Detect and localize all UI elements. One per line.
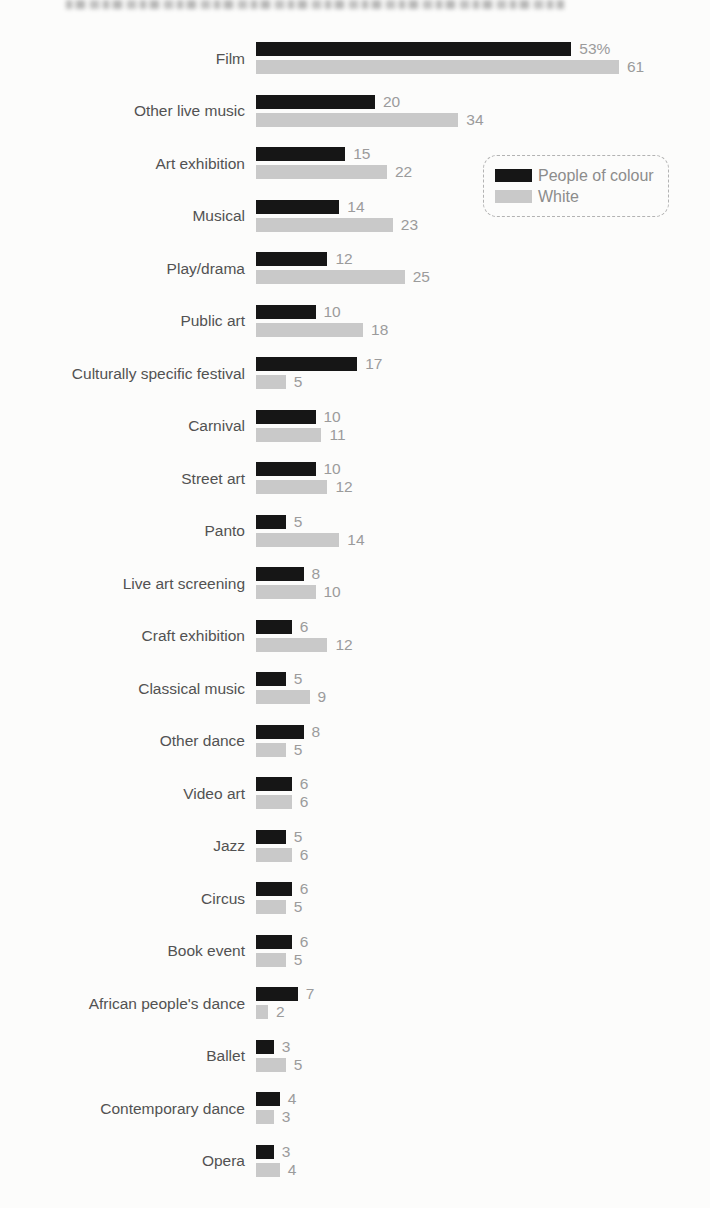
bar-group: 1011 [256, 410, 346, 442]
bar-line: 6 [256, 620, 353, 634]
value-label: 2 [276, 1005, 285, 1019]
bar-line: 20 [256, 95, 484, 109]
category-label: Book event [0, 942, 256, 959]
value-label: 6 [300, 848, 309, 862]
value-label: 6 [300, 882, 309, 896]
bar-group: 65 [256, 935, 308, 967]
value-label: 14 [347, 200, 364, 214]
value-label: 5 [294, 900, 303, 914]
bar-white [256, 480, 327, 494]
value-label: 3 [282, 1110, 291, 1124]
bar-group: 53%61 [256, 42, 644, 74]
bar-people-of-colour [256, 987, 298, 1001]
value-label: 53% [579, 42, 610, 56]
category-label: Video art [0, 785, 256, 802]
value-label: 5 [294, 515, 303, 529]
bar-line: 11 [256, 428, 346, 442]
bar-line: 6 [256, 795, 308, 809]
value-label: 10 [324, 305, 341, 319]
category-label: African people's dance [0, 995, 256, 1012]
category-row-african-people-s-dance: African people's dance72 [0, 987, 644, 1019]
bar-line: 5 [256, 743, 320, 757]
value-label: 6 [300, 620, 309, 634]
bar-line: 5 [256, 375, 382, 389]
value-label: 3 [282, 1145, 291, 1159]
value-label: 10 [324, 462, 341, 476]
bar-line: 34 [256, 113, 484, 127]
bar-people-of-colour [256, 1040, 274, 1054]
bar-line: 22 [256, 165, 412, 179]
category-row-panto: Panto514 [0, 515, 644, 547]
category-row-public-art: Public art1018 [0, 305, 644, 337]
bar-line: 5 [256, 900, 308, 914]
legend-label-white: White [538, 188, 579, 206]
legend-label-people-of-colour: People of colour [538, 167, 654, 185]
bar-line: 10 [256, 585, 341, 599]
value-label: 5 [294, 1058, 303, 1072]
category-label: Carnival [0, 417, 256, 434]
bar-group: 85 [256, 725, 320, 757]
category-row-film: Film53%61 [0, 42, 644, 74]
bar-group: 43 [256, 1092, 296, 1124]
category-label: Culturally specific festival [0, 365, 256, 382]
value-label: 12 [335, 480, 352, 494]
category-row-culturally-specific-festival: Culturally specific festival175 [0, 357, 644, 389]
bar-group: 2034 [256, 95, 484, 127]
bar-line: 6 [256, 935, 308, 949]
value-label: 20 [383, 95, 400, 109]
category-row-ballet: Ballet35 [0, 1040, 644, 1072]
legend-box: People of colour White [483, 155, 669, 217]
bar-line: 2 [256, 1005, 314, 1019]
bar-people-of-colour [256, 620, 292, 634]
bar-group: 1423 [256, 200, 418, 232]
bar-people-of-colour [256, 725, 304, 739]
bar-line: 12 [256, 252, 430, 266]
value-label: 15 [353, 147, 370, 161]
value-label: 17 [365, 357, 382, 371]
category-label: Classical music [0, 680, 256, 697]
bar-line: 5 [256, 830, 308, 844]
bar-line: 5 [256, 672, 326, 686]
category-row-jazz: Jazz56 [0, 830, 644, 862]
bar-line: 8 [256, 567, 341, 581]
category-label: Panto [0, 522, 256, 539]
bar-line: 10 [256, 305, 388, 319]
bar-people-of-colour [256, 95, 375, 109]
category-row-opera: Opera34 [0, 1145, 644, 1177]
bar-line: 5 [256, 1058, 302, 1072]
bar-group: 514 [256, 515, 365, 547]
bar-line: 14 [256, 533, 365, 547]
bar-group: 56 [256, 830, 308, 862]
bar-line: 14 [256, 200, 418, 214]
bar-white [256, 533, 339, 547]
bar-white [256, 690, 310, 704]
bar-people-of-colour [256, 410, 316, 424]
value-label: 9 [318, 690, 327, 704]
category-row-street-art: Street art1012 [0, 462, 644, 494]
bar-people-of-colour [256, 672, 286, 686]
bar-line: 7 [256, 987, 314, 1001]
category-label: Art exhibition [0, 155, 256, 172]
bar-people-of-colour [256, 462, 316, 476]
bar-line: 9 [256, 690, 326, 704]
value-label: 6 [300, 777, 309, 791]
category-row-play-drama: Play/drama1225 [0, 252, 644, 284]
bar-white [256, 743, 286, 757]
legend-swatch-people-of-colour-icon [495, 169, 532, 182]
bar-line: 15 [256, 147, 412, 161]
bar-line: 18 [256, 323, 388, 337]
bar-line: 12 [256, 480, 353, 494]
bar-line: 4 [256, 1092, 296, 1106]
bar-white [256, 1163, 280, 1177]
bar-line: 3 [256, 1040, 302, 1054]
value-label: 3 [282, 1040, 291, 1054]
category-label: Contemporary dance [0, 1100, 256, 1117]
bar-white [256, 113, 458, 127]
category-label: Ballet [0, 1047, 256, 1064]
bar-line: 6 [256, 777, 308, 791]
bar-line: 5 [256, 515, 365, 529]
category-row-other-live-music: Other live music2034 [0, 95, 644, 127]
category-label: Play/drama [0, 260, 256, 277]
value-label: 12 [335, 638, 352, 652]
category-label: Live art screening [0, 575, 256, 592]
